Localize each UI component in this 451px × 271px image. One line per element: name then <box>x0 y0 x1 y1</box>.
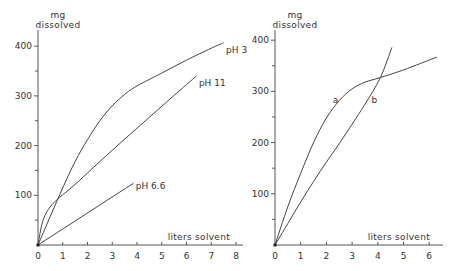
y-tick-label: 200 <box>15 141 32 151</box>
x-tick-label: 3 <box>109 251 115 261</box>
y-axis-label-line2: dissolved <box>273 20 318 30</box>
series-label-a: a <box>333 95 339 105</box>
figure: 012345678100200300400mgdissolvedliters s… <box>0 0 451 271</box>
x-tick-label: 6 <box>426 251 432 261</box>
y-tick-label: 200 <box>252 138 269 148</box>
y-tick-label: 400 <box>15 41 32 51</box>
x-axis-label: liters solvent <box>168 232 230 242</box>
x-tick-label: 7 <box>208 251 214 261</box>
x-tick-label: 4 <box>375 251 381 261</box>
x-tick-label: 1 <box>60 251 66 261</box>
y-tick-label: 300 <box>15 91 32 101</box>
x-tick-label: 2 <box>85 251 91 261</box>
x-tick-label: 5 <box>401 251 407 261</box>
series-label-ph-6-6: pH 6.6 <box>136 181 166 191</box>
y-tick-label: 400 <box>252 35 269 45</box>
y-tick-label: 300 <box>252 86 269 96</box>
y-axis-label-line2: dissolved <box>36 20 81 30</box>
x-tick-label: 4 <box>134 251 140 261</box>
y-tick-label: 100 <box>252 189 269 199</box>
y-axis-label-line1: mg <box>50 10 65 20</box>
x-axis-label: liters solvent <box>368 232 430 242</box>
x-tick-label: 0 <box>272 251 278 261</box>
origin-marker <box>274 244 277 247</box>
x-tick-label: 3 <box>349 251 355 261</box>
series-label-b: b <box>371 95 377 105</box>
series-label-ph-3: pH 3 <box>226 45 247 55</box>
origin-marker <box>37 244 40 247</box>
y-axis-label-line1: mg <box>287 10 302 20</box>
series-line-ph-6-6 <box>38 183 133 245</box>
right-chart-panel: 0123456100200300400mgdissolvedliters sol… <box>252 10 443 261</box>
x-tick-label: 2 <box>324 251 330 261</box>
series-line-ph-3 <box>38 43 224 245</box>
series-label-ph-11: pH 11 <box>199 78 226 88</box>
series-line-b <box>275 47 392 245</box>
x-tick-label: 8 <box>233 251 239 261</box>
left-chart-panel: 012345678100200300400mgdissolvedliters s… <box>15 10 247 261</box>
x-tick-label: 1 <box>298 251 304 261</box>
series-line-a <box>275 57 437 245</box>
x-tick-label: 5 <box>159 251 165 261</box>
y-tick-label: 100 <box>15 190 32 200</box>
x-tick-label: 6 <box>184 251 190 261</box>
x-tick-label: 0 <box>35 251 41 261</box>
